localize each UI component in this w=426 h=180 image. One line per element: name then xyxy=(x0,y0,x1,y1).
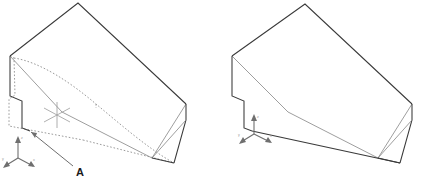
right-view-top-face xyxy=(232,4,412,158)
drawing-canvas: A z y x xyxy=(0,0,426,180)
left-isometric-view[interactable]: A z y x xyxy=(2,3,186,178)
right-isometric-view[interactable]: z y x xyxy=(232,4,412,163)
axis-label-x: x xyxy=(33,158,35,162)
left-view-axis-triad: z y x xyxy=(2,136,35,168)
technical-drawing-svg: A z y x xyxy=(0,0,426,180)
right-view-axis-triad: z y x xyxy=(238,114,272,144)
axis-label-z: z xyxy=(21,136,23,140)
axis-label-y: y xyxy=(2,157,4,161)
callout-arrowhead xyxy=(31,132,37,138)
axis-label-y: y xyxy=(238,133,240,137)
callout-label-a: A xyxy=(76,166,84,178)
axis-label-x: x xyxy=(270,134,272,138)
axis-label-z: z xyxy=(257,115,259,119)
left-view-top-face xyxy=(10,3,186,158)
